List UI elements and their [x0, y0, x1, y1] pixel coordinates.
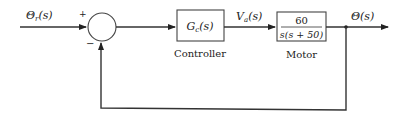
minus-sign: −: [86, 38, 94, 49]
output-label: Θ(s): [351, 10, 374, 23]
summing-junction: [88, 13, 116, 41]
motor-numerator: 60: [295, 15, 308, 26]
controller-transfer-label: Gc(s): [187, 20, 214, 34]
motor-denominator: s(s + 50): [280, 29, 324, 40]
plus-sign: +: [79, 9, 87, 19]
input-label: Θr(s): [26, 9, 53, 23]
block-diagram: Θr(s) + − Gc(s) Controller Va(s) 60 s(s …: [0, 0, 405, 118]
voltage-label: Va(s): [236, 10, 262, 24]
motor-caption: Motor: [286, 49, 317, 60]
controller-caption: Controller: [174, 48, 226, 59]
